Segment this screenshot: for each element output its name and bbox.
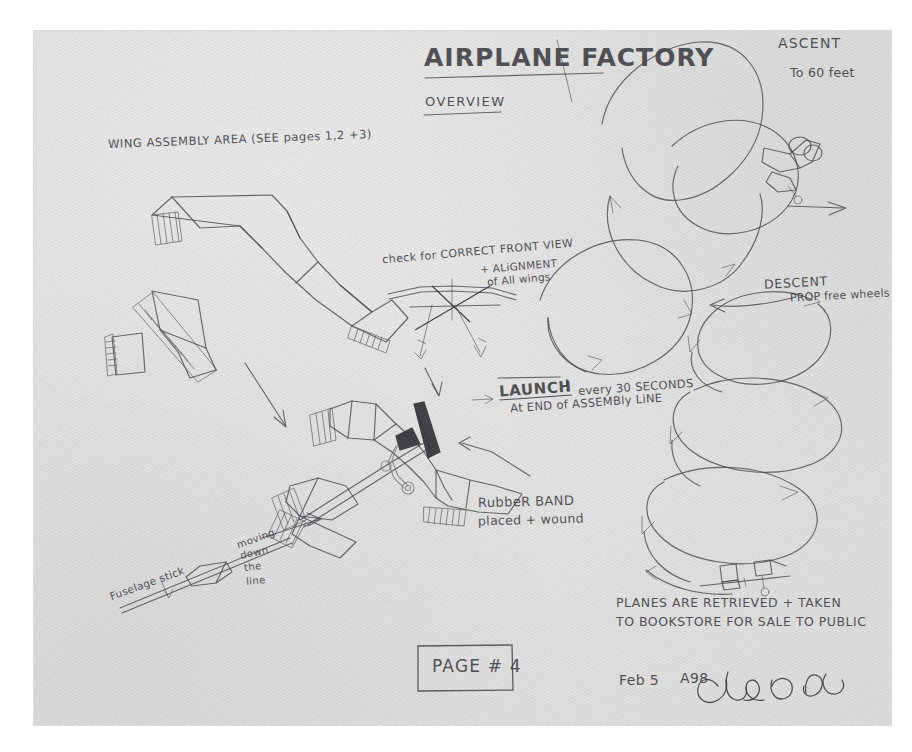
annotation-retrieval-line1: PLANES ARE RETRIEVED + TAKEN [616,596,841,610]
annotation-moving-line4: line [245,574,266,587]
annotation-launch-bang: ! [563,377,571,395]
signature-date: Feb 5 [619,673,659,689]
annotation-rubber-band-line2: placed + wound [478,512,584,529]
page-title: AiRPLANE FactoRY [424,44,714,72]
annotation-ascent-detail: To 60 feet [790,66,855,80]
signature-year: A98 [680,671,709,687]
annotation-ascent-title: ASCENT [778,36,841,52]
annotation-retrieval-line2: To BookSTORE FOR SALE To PUBLiC [616,615,866,629]
page-number-label: PAGE # 4 [432,657,522,676]
artwork-canvas: AiRPLANE FactoRY OVERVIEW WING ASSEMBLY … [0,0,912,752]
annotation-rubber-band-line1: RubbeR BAND [478,494,575,511]
page-subtitle: OVERVIEW [425,95,505,110]
